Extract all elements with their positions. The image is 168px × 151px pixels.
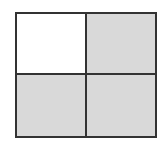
cell-top-left-unshaded [17, 14, 87, 75]
cell-bottom-left-shaded [17, 75, 87, 136]
cell-bottom-right-shaded [87, 75, 155, 136]
cell-top-right-shaded [87, 14, 155, 75]
diagram-canvas [0, 0, 168, 151]
square-grid [15, 12, 157, 138]
